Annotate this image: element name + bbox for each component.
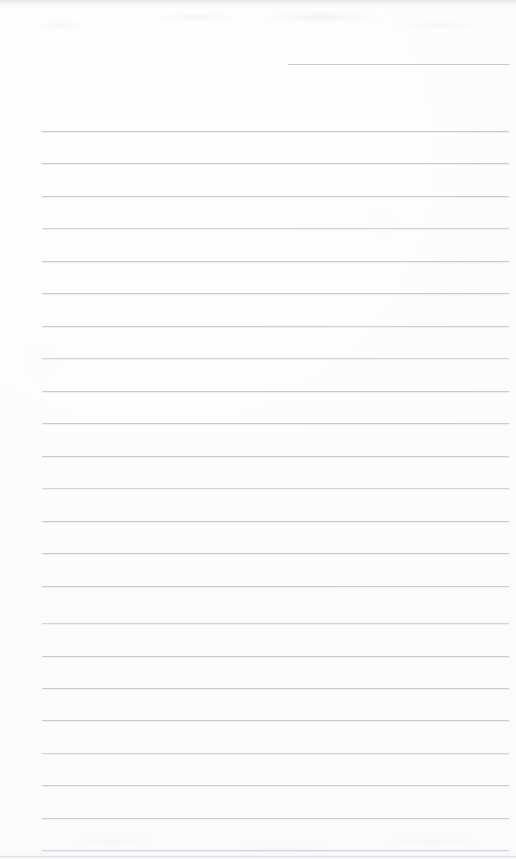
ruled-line	[42, 391, 509, 392]
ruled-line	[42, 131, 509, 132]
ruled-line	[42, 358, 509, 359]
ruled-line	[42, 720, 509, 721]
ruled-line	[42, 553, 509, 554]
ruled-line	[42, 785, 509, 786]
bottom-edge-faint-line	[0, 856, 516, 857]
ruled-line	[42, 623, 509, 624]
ruled-line	[42, 423, 509, 424]
ruled-line	[42, 293, 509, 294]
ruled-line	[42, 456, 509, 457]
ruled-line	[42, 656, 509, 657]
ruled-line	[42, 261, 509, 262]
ruled-line	[42, 163, 509, 164]
ruled-line	[42, 196, 509, 197]
ruled-line	[42, 521, 509, 522]
ruled-line	[42, 488, 509, 489]
ruled-line	[42, 850, 509, 851]
ruled-line	[42, 688, 509, 689]
ruled-line	[42, 586, 509, 587]
ruled-line	[42, 326, 509, 327]
scanned-page: Scanned blank ruled writing paper with n…	[0, 0, 516, 859]
ruled-line	[42, 818, 509, 819]
ruled-line	[42, 753, 509, 754]
header-rule-line	[288, 64, 509, 65]
ruled-line	[42, 228, 509, 229]
paper-background	[0, 0, 516, 859]
